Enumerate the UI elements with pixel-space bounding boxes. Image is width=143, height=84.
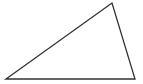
triangle-shape [6, 3, 135, 79]
triangle-diagram [0, 0, 143, 84]
